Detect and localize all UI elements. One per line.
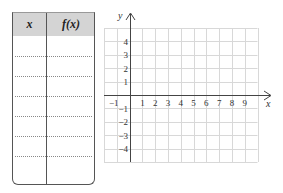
x-tick-label: 7 [217,98,222,108]
x-axis-label: x [265,98,271,109]
y-tick-label: 4 [124,37,129,47]
x-tick-label: 9 [242,98,247,108]
x-tick-label: 8 [230,98,235,108]
y-tick-label: −3 [118,131,128,141]
y-tick-label: 2 [124,64,129,74]
y-tick-label: −4 [118,144,128,154]
y-tick-label: −2 [118,117,128,127]
x-tick-label: 5 [191,98,196,108]
y-tick-label: 1 [124,77,129,87]
x-tick-label: 3 [166,98,171,108]
coordinate-grid[interactable]: x y −1123456789 4321−1−2−3−4 [0,0,283,193]
x-tick-label: 4 [179,98,184,108]
x-tick-label: −1 [109,98,119,108]
y-tick-label: −1 [118,104,128,114]
x-tick-label: 1 [140,98,145,108]
y-tick-label: 3 [124,50,129,60]
x-tick-label: 6 [204,98,209,108]
y-axis-label: y [117,10,123,21]
x-tick-labels: −1123456789 [109,98,247,108]
x-tick-label: 2 [153,98,158,108]
